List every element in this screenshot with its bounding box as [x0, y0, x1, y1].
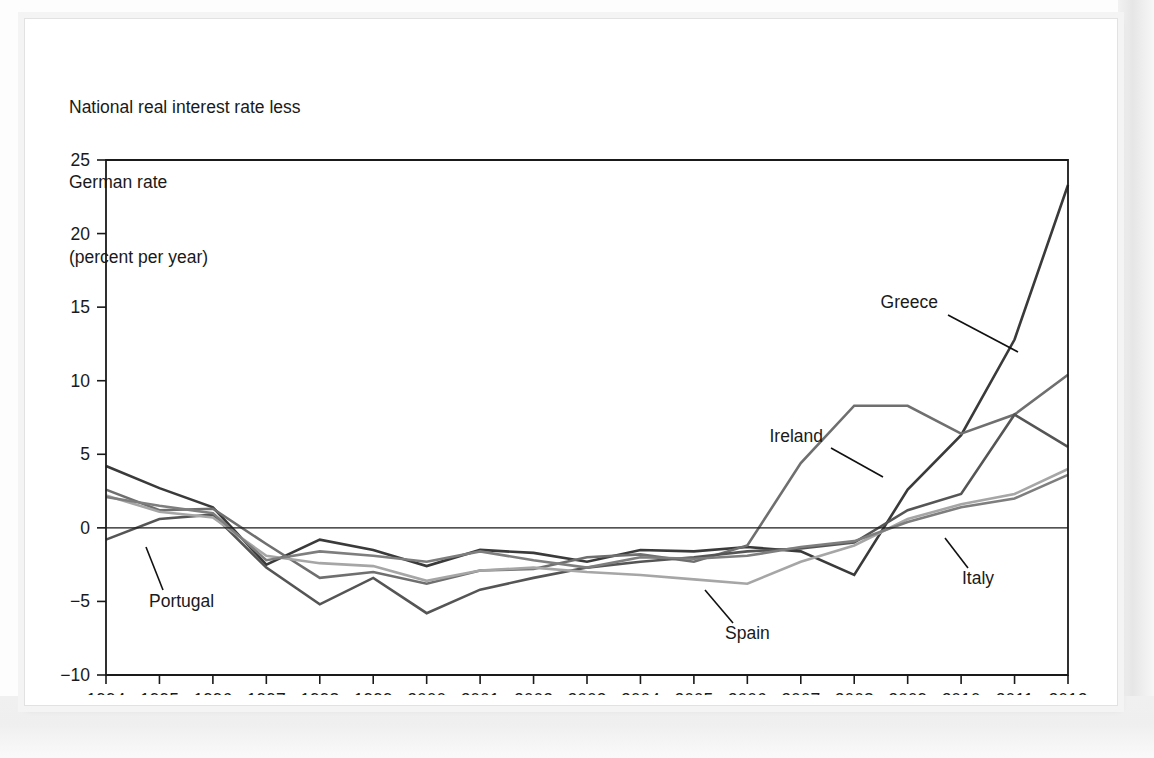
y-axis-ticks: 2520151050−5−10	[60, 150, 106, 685]
series-annotations: GreeceIrelandPortugalSpainItaly	[146, 292, 1018, 643]
x-tick-label: 2000	[407, 690, 446, 695]
x-tick-label: 1997	[247, 690, 286, 695]
x-tick-label: 1995	[140, 690, 179, 695]
leader-line-greece	[948, 315, 1018, 352]
series-label-portugal: Portugal	[149, 591, 214, 611]
plot-frame	[106, 160, 1068, 675]
x-tick-label: 1996	[193, 690, 232, 695]
y-tick-label: 15	[71, 297, 90, 317]
y-tick-label: 20	[71, 224, 91, 244]
x-tick-label: 2008	[835, 690, 874, 695]
series-layer	[106, 185, 1068, 613]
series-label-ireland: Ireland	[769, 426, 823, 446]
x-tick-label: 2001	[461, 690, 500, 695]
y-tick-label: 25	[71, 150, 90, 170]
scanned-page: National real interest rate less German …	[0, 0, 1154, 758]
figure-inner: National real interest rate less German …	[33, 27, 1107, 695]
leader-line-portugal	[146, 547, 163, 590]
x-tick-label: 2010	[942, 690, 981, 695]
y-tick-label: −10	[60, 665, 90, 685]
axes-layer	[106, 160, 1068, 675]
page-edge-shadow-right	[1118, 0, 1154, 758]
x-tick-label: 2005	[674, 690, 713, 695]
leader-line-ireland	[831, 448, 883, 477]
x-tick-label: 2006	[728, 690, 767, 695]
series-label-italy: Italy	[962, 568, 994, 588]
y-tick-label: 0	[80, 518, 90, 538]
x-tick-label: 1994	[87, 690, 126, 695]
x-tick-label: 1998	[300, 690, 339, 695]
y-tick-label: 10	[71, 371, 91, 391]
line-chart: 2520151050−5−10 199419951996199719981999…	[33, 27, 1107, 695]
x-tick-label: 2011	[996, 690, 1034, 695]
x-tick-label: 2003	[568, 690, 607, 695]
x-tick-label: 1999	[354, 690, 393, 695]
leader-line-italy	[945, 538, 968, 568]
x-tick-label: 2002	[514, 690, 553, 695]
series-label-greece: Greece	[881, 292, 938, 312]
series-line-italy	[106, 475, 1068, 568]
x-tick-label: 2012	[1049, 690, 1088, 695]
leader-line-spain	[705, 590, 733, 623]
figure-frame: National real interest rate less German …	[24, 18, 1118, 706]
x-tick-label: 2009	[888, 690, 927, 695]
y-tick-label: 5	[80, 444, 90, 464]
x-tick-label: 2004	[621, 690, 660, 695]
x-axis-ticks: 1994199519961997199819992000200120022003…	[87, 675, 1088, 695]
y-tick-label: −5	[70, 591, 90, 611]
x-tick-label: 2007	[781, 690, 820, 695]
series-label-spain: Spain	[725, 623, 770, 643]
